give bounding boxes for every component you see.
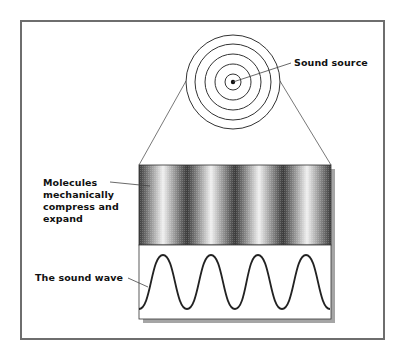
sound-diagram [0,0,399,352]
sound-wave-label: The sound wave [35,272,123,284]
compression-band [139,165,331,245]
sound-source-label: Sound source [294,57,368,69]
molecules-label: Molecules mechanically compress and expa… [43,177,133,225]
wave-box [139,245,331,319]
